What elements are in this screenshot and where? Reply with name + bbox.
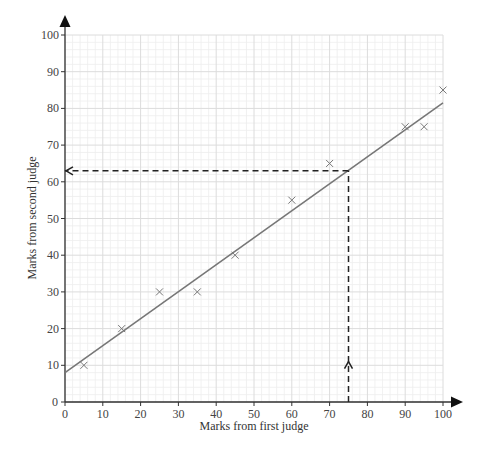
data-points xyxy=(80,87,446,369)
x-tick-label: 100 xyxy=(434,407,452,421)
y-tick-label: 80 xyxy=(47,101,59,115)
y-axis-label: Marks from second judge xyxy=(25,157,39,280)
y-tick-label: 100 xyxy=(41,28,59,42)
scatter-chart: 0102030405060708090100 01020304050607080… xyxy=(0,0,480,456)
major-grid xyxy=(65,35,443,402)
y-tick-label: 20 xyxy=(47,322,59,336)
x-axis-arrow-icon xyxy=(451,397,463,408)
arrow-left-icon xyxy=(66,167,73,175)
x-tick-label: 90 xyxy=(399,407,411,421)
x-tick-label: 70 xyxy=(324,407,336,421)
x-tick-label: 80 xyxy=(361,407,373,421)
x-tick-label: 10 xyxy=(97,407,109,421)
y-tick-label: 60 xyxy=(47,175,59,189)
y-tick-label: 90 xyxy=(47,65,59,79)
y-tick-label: 50 xyxy=(47,212,59,226)
x-marker-icon xyxy=(421,123,428,130)
y-tick-label: 70 xyxy=(47,138,59,152)
y-ticks: 0102030405060708090100 xyxy=(41,28,65,409)
y-axis-arrow-icon xyxy=(60,15,71,27)
y-tick-label: 40 xyxy=(47,248,59,262)
y-tick-label: 30 xyxy=(47,285,59,299)
x-tick-label: 20 xyxy=(135,407,147,421)
x-axis-label: Marks from first judge xyxy=(200,419,309,433)
x-tick-label: 30 xyxy=(172,407,184,421)
x-tick-label: 0 xyxy=(62,407,68,421)
y-tick-label: 0 xyxy=(52,395,58,409)
y-tick-label: 10 xyxy=(47,358,59,372)
